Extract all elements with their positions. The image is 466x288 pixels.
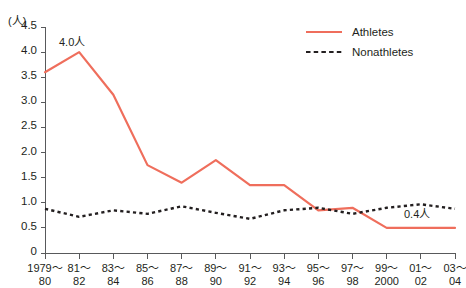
series-line-nonathletes [45, 204, 455, 219]
annotation-end-value: 0.4人 [404, 205, 430, 221]
legend-label-athletes: Athletes [352, 26, 394, 38]
series-line-athletes [45, 52, 455, 228]
line-chart: (人) 00.51.01.52.02.53.03.54.04.5 1979～80… [0, 0, 466, 288]
legend-swatch-solid-line-icon [305, 26, 343, 38]
legend-item-nonathletes: Nonathletes [305, 42, 413, 62]
annotation-peak-value: 4.0人 [59, 33, 85, 49]
legend-label-nonathletes: Nonathletes [352, 46, 413, 58]
legend-item-athletes: Athletes [305, 22, 413, 42]
series-lines [45, 52, 455, 228]
chart-legend: Athletes Nonathletes [305, 22, 413, 62]
legend-swatch-dotted-line-icon [305, 46, 343, 58]
